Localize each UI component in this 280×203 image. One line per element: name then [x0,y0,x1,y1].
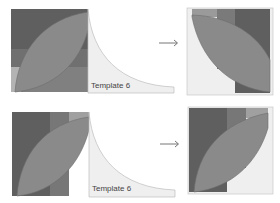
diagram-canvas: Template 6 Template 6 [0,0,280,203]
row1-pieced-block [11,9,88,92]
row1-template-6: Template 6 [88,9,174,93]
row2-pieced-block [12,112,89,196]
row2-template-label: Template 6 [92,184,132,193]
row1-arrow-icon [159,40,178,46]
row2-template-6: Template 6 [89,112,175,197]
row2-arrow-icon [160,141,179,147]
row1-result-block [187,8,273,95]
row2-result-block [188,107,273,194]
row1-template-label: Template 6 [91,81,131,90]
